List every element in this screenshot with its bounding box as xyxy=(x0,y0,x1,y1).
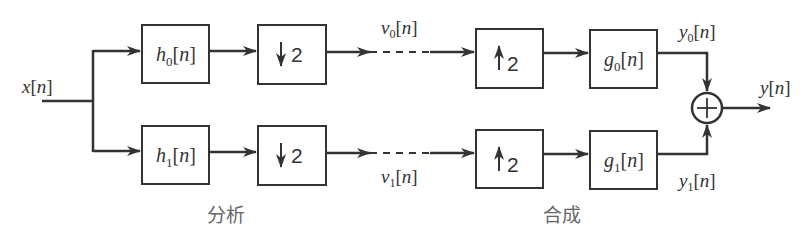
y1-label: y1[n] xyxy=(679,171,716,193)
output-label: y[n] xyxy=(760,78,791,97)
v0-label: v0[n] xyxy=(381,18,418,40)
h0-label: h0[n] xyxy=(148,44,204,68)
y0-label: y0[n] xyxy=(679,22,716,44)
y0-to-adder xyxy=(657,53,707,91)
downsample-factor-1: 2 xyxy=(291,145,303,166)
g1-label: g1[n] xyxy=(596,150,652,174)
analysis-caption: 分析 xyxy=(207,206,245,225)
y1-to-adder xyxy=(657,125,707,154)
h1-label: h1[n] xyxy=(148,145,204,169)
synthesis-caption: 合成 xyxy=(543,206,581,225)
downsample-factor-0: 2 xyxy=(291,44,303,65)
upsample-factor-0: 2 xyxy=(507,53,519,74)
input-label: x[n] xyxy=(22,77,53,96)
upsample-factor-1: 2 xyxy=(507,154,519,175)
g0-label: g0[n] xyxy=(596,49,652,73)
v1-label: v1[n] xyxy=(381,167,418,189)
